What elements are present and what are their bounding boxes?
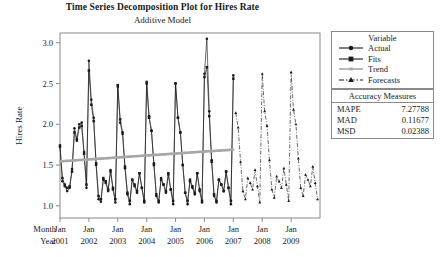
data-point (285, 183, 288, 186)
data-point (191, 151, 193, 153)
data-point (244, 198, 247, 201)
legend-item-label: Trend (364, 64, 388, 74)
data-point (131, 178, 134, 181)
data-point (76, 139, 79, 142)
data-point (129, 156, 131, 158)
series-trend (59, 149, 235, 163)
legend-marker-square-icon (338, 54, 364, 64)
data-point (133, 183, 136, 186)
data-point (165, 153, 167, 155)
data-point (92, 120, 95, 123)
data-point (66, 187, 69, 190)
data-point (114, 201, 117, 204)
data-point (186, 152, 188, 154)
data-point (234, 111, 237, 114)
data-point (349, 67, 353, 71)
series-actual (59, 37, 235, 205)
data-point (167, 172, 170, 175)
legend-item-label: Fits (364, 54, 381, 64)
accuracy-metric-name: MAD (332, 115, 379, 126)
data-point (246, 177, 249, 180)
data-point (131, 155, 133, 157)
data-point (93, 158, 95, 160)
data-point (138, 172, 141, 175)
data-point (172, 153, 174, 155)
data-point (206, 150, 208, 152)
data-point (117, 84, 120, 87)
data-point (112, 157, 114, 159)
accuracy-row-msd: MSD0.02388 (332, 126, 433, 137)
data-point (198, 188, 201, 191)
data-point (203, 150, 205, 152)
data-point (155, 193, 158, 196)
data-point (215, 200, 218, 203)
data-point (138, 155, 140, 157)
data-point (153, 154, 155, 156)
data-point (71, 159, 73, 161)
data-point (157, 200, 160, 203)
data-point (230, 149, 232, 151)
data-point (220, 183, 223, 186)
data-point (299, 186, 302, 189)
data-point (88, 158, 90, 160)
data-point (167, 153, 169, 155)
data-point (215, 150, 217, 152)
data-point (258, 201, 261, 204)
data-point (148, 117, 151, 120)
data-point (349, 46, 354, 51)
data-point (266, 124, 269, 127)
data-point (208, 150, 210, 152)
data-point (251, 188, 254, 191)
data-point (278, 180, 281, 183)
data-point (302, 194, 305, 197)
data-point (174, 152, 176, 154)
data-point (304, 173, 307, 176)
data-point (61, 177, 64, 180)
accuracy-metric-name: MAPE (332, 104, 379, 115)
accuracy-metric-name: MSD (332, 126, 379, 137)
data-point (230, 200, 233, 203)
data-point (223, 149, 225, 151)
data-point (261, 72, 264, 75)
data-point (270, 188, 273, 191)
data-point (316, 198, 319, 201)
data-point (95, 158, 97, 160)
data-point (282, 167, 285, 170)
data-point (186, 203, 189, 206)
data-point (292, 108, 295, 111)
accuracy-metric-value: 0.11677 (379, 115, 429, 126)
data-point (206, 37, 209, 40)
data-point (64, 183, 67, 186)
data-point (97, 195, 100, 198)
data-point (141, 155, 143, 157)
series-line (60, 67, 233, 201)
data-point (220, 149, 222, 151)
data-point (129, 200, 132, 203)
data-point (68, 185, 71, 188)
data-point (109, 170, 112, 173)
data-point (230, 203, 233, 206)
data-point (61, 160, 63, 162)
data-point (179, 152, 181, 154)
data-point (85, 187, 88, 190)
data-point (199, 151, 201, 153)
data-point (66, 160, 68, 162)
legend-item-label: Actual (364, 43, 391, 53)
data-point (73, 131, 76, 134)
data-point (213, 193, 216, 196)
data-point (78, 126, 81, 129)
x-axis-labels: Month JanJanJanJanJanJanJanJanJan Year 2… (0, 224, 325, 248)
data-point (174, 82, 177, 85)
data-point (143, 200, 146, 203)
data-point (117, 156, 119, 158)
legend-item-trend: Trend (332, 64, 433, 75)
data-point (141, 187, 144, 190)
data-point (314, 181, 317, 184)
data-point (225, 149, 227, 151)
data-point (208, 115, 211, 118)
legend-marker-circle-icon (338, 43, 364, 53)
data-point (121, 131, 124, 134)
data-point (225, 170, 228, 173)
data-point (69, 160, 71, 162)
data-point (232, 149, 234, 151)
